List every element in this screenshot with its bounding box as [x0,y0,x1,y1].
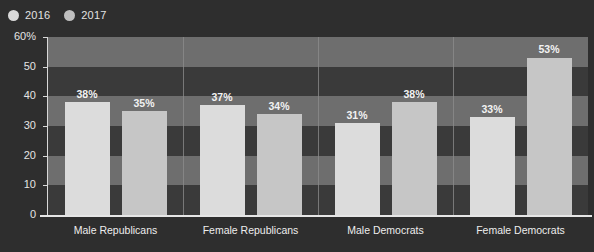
bar-2016-female-democrats[interactable]: 33% [470,117,515,215]
bar-2016-female-republicans[interactable]: 37% [200,105,245,215]
bar-2016-male-democrats[interactable]: 31% [335,123,380,215]
y-tick-label: 20 [0,150,36,161]
y-tick-label: 40 [0,90,36,101]
bar-value-label: 33% [481,104,502,115]
bar-value-label: 53% [538,44,559,55]
y-tick-label: 60% [0,31,36,42]
category-label: Female Republicans [183,224,318,237]
category-label: Female Democrats [453,224,588,237]
bar-value-label: 38% [76,89,97,100]
y-tick-label: 50 [0,61,36,72]
bar-chart: 20162017 60%50403020100 38%35%37%34%31%3… [0,0,594,252]
circle-marker-icon [64,10,75,21]
bar-value-label: 37% [211,92,232,103]
bar-value-label: 31% [346,110,367,121]
bar-value-label: 38% [403,89,424,100]
legend-label: 2017 [81,10,106,21]
bar-2017-female-democrats[interactable]: 53% [527,58,572,215]
bar-value-label: 35% [133,98,154,109]
bar-2017-male-republicans[interactable]: 35% [122,111,167,215]
bar-value-label: 34% [268,101,289,112]
plot-area: 38%35%37%34%31%38%33%53% [48,37,588,215]
category-label: Male Democrats [318,224,453,237]
legend-entry-2017[interactable]: 2017 [64,10,106,21]
bar-layer: 38%35%37%34%31%38%33%53% [48,37,588,215]
x-axis-line [40,215,592,217]
category-axis: Male RepublicansFemale RepublicansMale D… [48,224,588,244]
bar-2017-male-democrats[interactable]: 38% [392,102,437,215]
bar-2016-male-republicans[interactable]: 38% [65,102,110,215]
category-label: Male Republicans [48,224,183,237]
y-tick-label: 30 [0,120,36,131]
y-tick-label: 0 [0,209,36,220]
bar-2017-female-republicans[interactable]: 34% [257,114,302,215]
y-tick-label: 10 [0,179,36,190]
